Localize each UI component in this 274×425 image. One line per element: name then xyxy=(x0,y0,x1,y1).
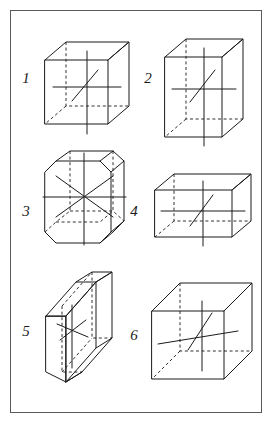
figure-2-label: 2 xyxy=(144,70,152,86)
figure-3-bottom-right-face xyxy=(100,221,124,243)
figure-4-hidden-diagonal xyxy=(155,221,174,237)
figure-1-label: 1 xyxy=(22,70,30,86)
figure-plate: 1 2 xyxy=(0,0,274,425)
figure-5-axis-oblique xyxy=(60,320,86,340)
figure-5-label: 5 xyxy=(22,323,30,339)
figure-6-label: 6 xyxy=(130,327,138,343)
figure-4-label: 4 xyxy=(130,203,138,219)
figure-5-hidden-top-slant xyxy=(62,272,92,306)
figure-6-hidden-diagonal xyxy=(152,351,180,379)
figure-2-right-face xyxy=(222,39,243,137)
figure-3-top-edge-right xyxy=(100,151,113,161)
figure-2-tetragonal-cell: 2 xyxy=(144,39,243,146)
figure-6-axis-horizontal xyxy=(158,331,238,344)
figure-3-hidden-left xyxy=(45,151,70,232)
figure-5-bottom-face xyxy=(66,338,112,382)
figure-2-axis-oblique xyxy=(190,70,215,102)
figure-3-hexagonal-cell: 3 xyxy=(21,151,126,245)
figure-1-hidden-diagonal xyxy=(45,106,66,124)
figure-6-axis-oblique xyxy=(188,313,212,350)
figure-1-axis-oblique xyxy=(72,70,98,101)
figure-2-hidden-edges xyxy=(186,39,243,119)
figure-5-triclinic-cell: 5 xyxy=(22,272,112,382)
figure-3-front-outline xyxy=(45,161,111,243)
figure-3-hidden-bottom xyxy=(70,211,124,221)
figure-4-right-face xyxy=(232,174,251,237)
figure-5-front-face xyxy=(46,316,66,382)
figure-6-monoclinic-cell: 6 xyxy=(130,283,252,379)
figure-3-label: 3 xyxy=(21,203,30,219)
figure-2-hidden-diagonal xyxy=(165,119,186,137)
figure-1-right-face xyxy=(108,42,129,124)
figure-1-front-face xyxy=(45,60,108,124)
figure-5-back-top-face xyxy=(76,272,112,282)
figure-4-orthorhombic-cell: 4 xyxy=(130,174,251,246)
figure-5-back-right-face xyxy=(96,272,112,348)
figure-1-cubic-cell: 1 xyxy=(22,42,129,134)
figure-4-front-face xyxy=(155,190,232,237)
figure-4-hidden-edges xyxy=(174,174,251,221)
crystal-systems-diagram: 1 2 xyxy=(0,0,274,425)
